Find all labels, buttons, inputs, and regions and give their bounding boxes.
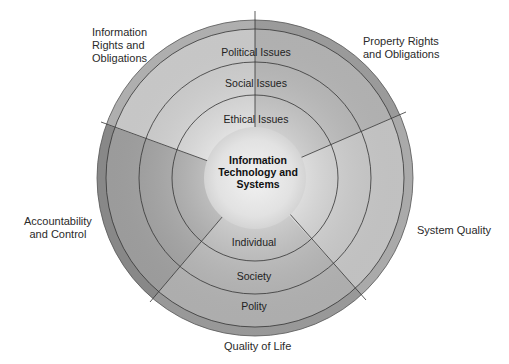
center-label-line3: Systems <box>218 178 298 190</box>
center-label-line1: Information <box>218 154 298 166</box>
label-property-rights-line2: and Obligations <box>363 48 439 61</box>
ring-label-ethical: Ethical Issues <box>224 113 289 125</box>
label-information-rights-line3: Obligations <box>92 52 147 65</box>
center-label-line2: Technology and <box>218 166 298 178</box>
ring-label-individual: Individual <box>232 236 276 248</box>
label-system-quality: System Quality <box>417 224 491 237</box>
ring-label-political: Political Issues <box>221 46 290 58</box>
label-information-rights: Information Rights and Obligations <box>92 26 147 65</box>
label-accountability: Accountability and Control <box>24 215 92 241</box>
ring-label-social: Social Issues <box>225 77 287 89</box>
label-property-rights-line1: Property Rights <box>363 35 439 48</box>
label-information-rights-line1: Information <box>92 26 147 39</box>
center-label: Information Technology and Systems <box>218 154 298 190</box>
label-accountability-line1: Accountability <box>24 215 92 228</box>
label-information-rights-line2: Rights and <box>92 39 147 52</box>
ring-label-polity: Polity <box>241 300 267 312</box>
ring-label-society: Society <box>237 270 271 282</box>
label-property-rights: Property Rights and Obligations <box>363 35 439 61</box>
label-accountability-line2: and Control <box>24 228 92 241</box>
label-quality-of-life: Quality of Life <box>224 340 291 353</box>
